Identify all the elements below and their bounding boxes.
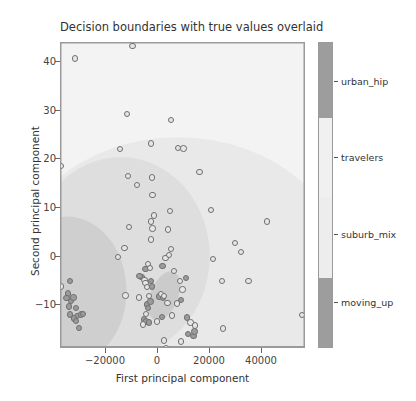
x-tick-mark: [261, 348, 262, 353]
scatter-point: [60, 163, 64, 169]
colorbar-label-urban-hip: urban_hip: [341, 76, 388, 87]
scatter-point: [148, 236, 154, 242]
scatter-point: [180, 145, 186, 151]
colorbar-segment-travelers: [319, 118, 332, 198]
scatter-point: [208, 207, 214, 213]
scatter-point: [134, 182, 140, 188]
scatter-point: [148, 140, 154, 146]
colorbar-label-travelers: travelers: [341, 152, 383, 163]
scatter-point: [210, 256, 216, 262]
colorbar-segment-suburb-mix: [319, 198, 332, 278]
scatter-point: [191, 328, 197, 334]
colorbar-tick-mark: [334, 302, 338, 303]
x-tick-mark: [105, 348, 106, 353]
scatter-point: [232, 240, 238, 246]
y-tick-label: 40: [43, 56, 56, 67]
colorbar[interactable]: [318, 42, 333, 348]
colorbar-label-moving-up: moving_up: [341, 297, 393, 308]
x-axis-label: First principal component: [60, 372, 305, 384]
colorbar-label-suburb-mix: suburb_mix: [341, 229, 396, 240]
scatter-point: [73, 305, 79, 311]
scatter-point: [192, 322, 198, 328]
scatter-point: [154, 318, 160, 324]
x-tick-mark: [209, 348, 210, 353]
scatter-points-layer: [61, 43, 304, 347]
scatter-point: [163, 345, 169, 348]
y-tick-label: −10: [35, 299, 56, 310]
scatter-point: [147, 265, 153, 271]
scatter-point: [126, 224, 132, 230]
scatter-point: [136, 294, 142, 300]
scatter-point: [171, 268, 177, 274]
scatter-point: [169, 312, 175, 318]
scatter-point: [161, 293, 167, 299]
scatter-point: [174, 300, 180, 306]
scatter-point: [129, 43, 135, 49]
scatter-point: [161, 337, 167, 343]
scatter-point: [196, 169, 202, 175]
scatter-point: [166, 252, 172, 258]
colorbar-segment-moving-up: [319, 278, 332, 348]
scatter-point: [168, 117, 174, 123]
scatter-point: [147, 298, 153, 304]
y-tick-label: 10: [43, 202, 56, 213]
scatter-point: [177, 278, 183, 284]
scatter-point: [149, 174, 155, 180]
scatter-point: [167, 208, 173, 214]
scatter-point: [80, 311, 86, 317]
scatter-point: [219, 278, 225, 284]
scatter-point: [115, 254, 121, 260]
scatter-point: [122, 292, 128, 298]
scatter-point: [149, 192, 155, 198]
x-tick-label: 0: [154, 355, 160, 366]
scatter-point: [76, 325, 82, 331]
scatter-point: [299, 312, 305, 318]
scatter-point: [73, 318, 79, 324]
scatter-point: [143, 311, 149, 317]
x-tick-mark: [157, 348, 158, 353]
scatter-point: [179, 286, 185, 292]
scatter-point: [220, 325, 226, 331]
scatter-point: [264, 218, 270, 224]
figure-canvas: Decision boundaries with true values ove…: [0, 0, 416, 401]
scatter-point: [121, 245, 127, 251]
y-tick-label: 20: [43, 153, 56, 164]
scatter-point: [164, 300, 170, 306]
scatter-point: [238, 249, 244, 255]
scatter-point: [183, 275, 189, 281]
y-tick-label: 0: [50, 251, 56, 262]
y-tick-label: 30: [43, 105, 56, 116]
scatter-point: [70, 294, 76, 300]
colorbar-tick-mark: [334, 234, 338, 235]
scatter-point: [245, 278, 251, 284]
x-tick-label: −20000: [85, 355, 125, 366]
x-tick-label: 40000: [245, 355, 277, 366]
scatter-point: [148, 218, 154, 224]
scatter-point: [178, 338, 184, 344]
scatter-point: [124, 111, 130, 117]
page-title: Decision boundaries with true values ove…: [60, 20, 306, 34]
scatter-point: [146, 319, 152, 325]
colorbar-segment-urban-hip: [319, 43, 332, 118]
scatter-point: [67, 278, 73, 284]
x-tick-label: 20000: [193, 355, 225, 366]
scatter-point: [140, 321, 146, 327]
scatter-point: [159, 263, 165, 269]
colorbar-tick-mark: [334, 157, 338, 158]
scatter-point: [149, 225, 155, 231]
scatter-point: [66, 303, 72, 309]
scatter-point: [60, 283, 64, 289]
colorbar-tick-mark: [334, 81, 338, 82]
scatter-point: [117, 146, 123, 152]
scatter-point: [125, 173, 131, 179]
y-axis-label: Second principal component: [29, 111, 41, 291]
scatter-point: [72, 55, 78, 61]
plot-area: [60, 42, 305, 348]
scatter-point: [165, 226, 171, 232]
